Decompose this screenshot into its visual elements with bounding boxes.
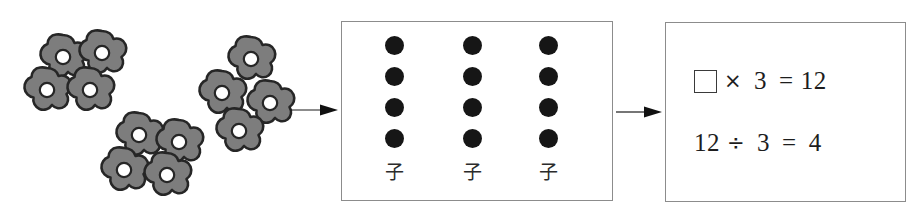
arrow-flowers-to-dots [290, 103, 338, 117]
dot-marker [385, 36, 404, 55]
multiplication-result: 12 [801, 67, 827, 95]
division-dividend: 12 [694, 129, 720, 157]
division-operator: ÷ [727, 131, 745, 155]
arrow-dots-to-equations [616, 105, 662, 119]
dot-column-label: 子 [539, 163, 558, 182]
division-equation: 12 ÷ 3 = 4 [694, 129, 905, 157]
dot-marker [539, 36, 558, 55]
dot-marker [463, 36, 482, 55]
dot-marker [385, 67, 404, 86]
equation-stack: × 3 = 12 12 ÷ 3 = 4 [666, 23, 905, 201]
dot-marker [539, 98, 558, 117]
dot-marker [539, 67, 558, 86]
division-result: 4 [809, 129, 822, 157]
dot-marker [539, 129, 558, 148]
diagram-canvas: 子子子 × 3 = 12 12 ÷ [0, 0, 922, 221]
dot-column-label: 子 [385, 163, 404, 182]
multiplication-operand: 3 [754, 67, 767, 95]
multiplication-equals: = [779, 67, 794, 95]
multiplication-operator: × [724, 69, 742, 93]
flower-icon [63, 65, 117, 117]
dot-column: 子 [450, 36, 494, 182]
dot-column: 子 [526, 36, 570, 182]
dot-marker [463, 67, 482, 86]
division-operand: 3 [757, 129, 770, 157]
division-equals: = [782, 129, 797, 157]
flower-icon [212, 106, 266, 158]
flower-icon [140, 150, 194, 202]
dot-marker [463, 129, 482, 148]
multiplication-equation: × 3 = 12 [694, 67, 905, 95]
dot-column: 子 [372, 36, 416, 182]
dot-grid: 子子子 [342, 22, 612, 200]
dot-marker [463, 98, 482, 117]
flower-field [0, 0, 300, 221]
dot-marker [385, 129, 404, 148]
dot-column-label: 子 [463, 163, 482, 182]
equation-panel: × 3 = 12 12 ÷ 3 = 4 [665, 22, 906, 202]
answer-blank-box[interactable] [694, 70, 717, 93]
dot-marker [385, 98, 404, 117]
dot-array-panel: 子子子 [341, 21, 613, 201]
